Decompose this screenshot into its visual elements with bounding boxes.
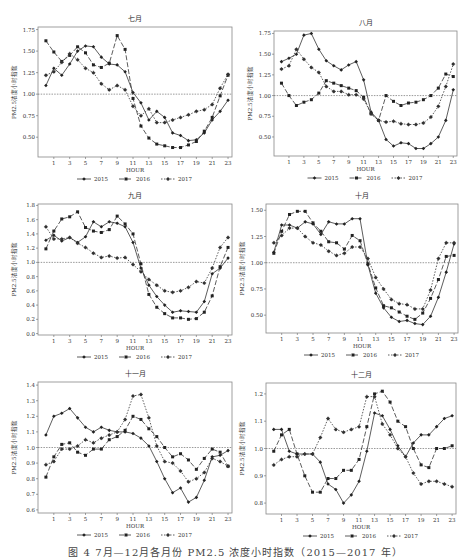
x-tick-label: 7 (327, 336, 331, 342)
y-tick-label: 0.6 (26, 507, 35, 513)
x-tick-label: 9 (343, 336, 347, 342)
x-tick-label: 21 (209, 160, 216, 166)
y-tick-label: 1.75 (23, 27, 36, 33)
y-tick-label: 0.50 (259, 134, 272, 140)
x-tick-label: 11 (356, 517, 363, 523)
x-tick-label: 13 (145, 160, 152, 166)
x-tick-label: 5 (311, 517, 315, 523)
legend-label-2015: 2015 (325, 175, 339, 181)
x-axis-title: HOUR (353, 343, 372, 349)
plot-frame (38, 27, 232, 157)
y-tick-label: 0.9 (254, 473, 263, 479)
legend-label-2015: 2015 (94, 176, 108, 182)
figure-caption: 图 4 7月—12月各月份 PM2.5 浓度小时指数（2015—2017 年） (0, 544, 471, 559)
y-tick-label: 1.1 (26, 429, 35, 435)
x-tick-label: 5 (84, 160, 88, 166)
legend-label-2015: 2015 (94, 532, 108, 538)
x-tick-label: 21 (433, 517, 440, 523)
y-axis-title: PM2.5浓度小时指数 (238, 421, 246, 475)
x-tick-label: 5 (84, 338, 88, 344)
x-tick-label: 21 (209, 516, 216, 522)
x-tick-label: 19 (420, 159, 427, 165)
x-tick-label: 11 (130, 516, 137, 522)
y-axis-title: PM2.5浓度小时指数 (10, 65, 18, 119)
x-tick-label: 17 (177, 338, 184, 344)
y-tick-label: 0.0 (26, 331, 35, 337)
series-2017 (272, 226, 456, 311)
x-tick-label: 1 (52, 516, 56, 522)
x-tick-label: 11 (360, 159, 367, 165)
y-tick-label: 1.3 (26, 398, 35, 404)
x-tick-label: 13 (375, 159, 382, 165)
y-tick-label: 0.75 (23, 113, 36, 119)
panel-title: 十一月 (125, 369, 146, 378)
x-tick-label: 23 (451, 336, 458, 342)
legend: 201520162017 (308, 175, 423, 181)
chart-panel-1: 七月0.500.751.001.251.501.7513579111315171… (10, 14, 232, 182)
y-axis-title: PM2.5浓度小时指数 (10, 242, 18, 296)
y-tick-label: 0.8 (26, 274, 35, 280)
y-tick-label: 1.4 (26, 382, 35, 388)
x-tick-label: 1 (52, 338, 56, 344)
y-tick-label: 1.25 (251, 234, 264, 240)
series-2017 (44, 225, 230, 295)
y-tick-label: 0.50 (251, 312, 264, 318)
x-tick-label: 1 (280, 517, 284, 523)
x-tick-label: 3 (68, 516, 72, 522)
y-tick-label: 1.50 (251, 207, 264, 213)
x-tick-label: 3 (68, 338, 72, 344)
plot-frame (274, 31, 457, 156)
x-tick-label: 19 (418, 517, 425, 523)
y-tick-label: 1.4 (26, 231, 35, 237)
x-tick-label: 11 (130, 160, 137, 166)
series-2015 (44, 220, 230, 314)
x-tick-label: 17 (405, 159, 412, 165)
y-tick-label: 0.7 (26, 491, 35, 497)
x-tick-label: 3 (296, 336, 300, 342)
legend-label-2016: 2016 (136, 176, 150, 182)
series-2017 (279, 47, 455, 126)
y-tick-label: 1.0 (254, 446, 263, 452)
x-tick-label: 3 (302, 159, 306, 165)
chart-panel-6: 十二月0.80.91.01.11.21357911131517192123HOU… (238, 370, 456, 539)
x-tick-label: 15 (390, 159, 397, 165)
legend: 201520162017 (304, 352, 419, 358)
plot-frame (38, 204, 232, 335)
x-tick-label: 21 (435, 159, 442, 165)
y-tick-label: 0.8 (26, 476, 35, 482)
panel-title: 九月 (128, 191, 142, 200)
x-tick-label: 15 (161, 338, 168, 344)
x-tick-label: 17 (177, 160, 184, 166)
y-tick-label: 1.1 (254, 418, 263, 424)
x-tick-label: 13 (145, 516, 152, 522)
x-tick-label: 9 (115, 338, 119, 344)
plot-frame (266, 204, 458, 333)
x-tick-label: 7 (326, 517, 330, 523)
panel-title: 十二月 (351, 370, 372, 379)
x-tick-label: 19 (193, 160, 200, 166)
x-tick-label: 9 (115, 516, 119, 522)
x-tick-label: 21 (209, 338, 216, 344)
x-tick-label: 1 (280, 336, 284, 342)
series-2016 (44, 415, 229, 479)
legend: 201520162017 (303, 533, 418, 539)
x-tick-label: 19 (193, 338, 200, 344)
legend-label-2017: 2017 (178, 176, 192, 182)
series-2017 (44, 392, 230, 483)
x-tick-label: 13 (145, 338, 152, 344)
y-tick-label: 1.6 (26, 217, 35, 223)
x-axis-title: HOUR (352, 524, 371, 530)
chart-panel-3: 九月0.00.20.40.60.81.01.21.41.61.813579111… (10, 191, 232, 360)
series-2015 (44, 44, 230, 142)
y-tick-label: 1.2 (254, 391, 263, 397)
y-axis-title: PM2.5浓度小时指数 (238, 241, 246, 295)
x-tick-label: 3 (68, 160, 72, 166)
y-tick-label: 1.2 (26, 245, 35, 251)
x-tick-label: 19 (419, 336, 426, 342)
x-tick-label: 23 (225, 516, 232, 522)
x-tick-label: 7 (100, 160, 104, 166)
x-tick-label: 17 (177, 516, 184, 522)
y-tick-label: 0.4 (26, 302, 35, 308)
y-tick-label: 0.75 (259, 113, 272, 119)
